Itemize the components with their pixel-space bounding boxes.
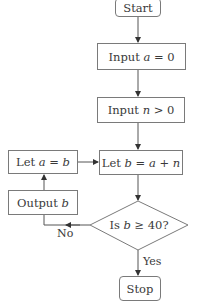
- let-a-node: Let a = b: [8, 150, 78, 174]
- arrow-decision-no-to-output-b: [44, 215, 90, 225]
- stop-label: Stop: [127, 282, 154, 296]
- output-b-node: Output b: [8, 190, 78, 215]
- start-node: Start: [115, 0, 161, 17]
- yes-label: Yes: [143, 255, 161, 268]
- start-label: Start: [123, 1, 152, 15]
- decision-label: Is b ≥ 40?: [98, 216, 180, 234]
- input-n-node: Input n > 0: [97, 97, 185, 123]
- stop-node: Stop: [119, 276, 161, 301]
- input-a-node: Input a = 0: [97, 43, 186, 70]
- let-b-node: Let b = a + n: [99, 150, 183, 175]
- no-label: No: [57, 227, 73, 240]
